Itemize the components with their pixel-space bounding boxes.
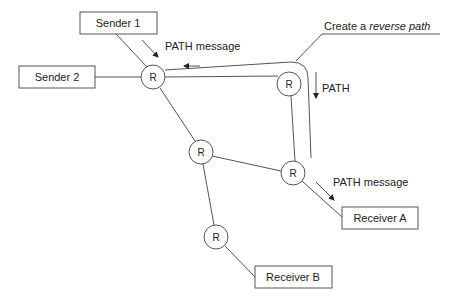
rsvp-diagram: Sender 1 Sender 2 Receiver A Receiver B … — [0, 0, 455, 301]
path-arrow-top — [142, 40, 158, 57]
path-arrow-bottom — [316, 182, 334, 200]
router-2-label: R — [285, 79, 292, 90]
router-5: R — [204, 225, 228, 249]
router-1-label: R — [149, 72, 156, 83]
path-message-bottom-label: PATH message — [333, 176, 408, 188]
receiver-b-label: Receiver B — [266, 271, 320, 283]
path-label: PATH — [322, 82, 350, 94]
path-message-top-label: PATH message — [165, 40, 240, 52]
reverse-path-callout — [296, 34, 322, 61]
router-4: R — [281, 161, 305, 185]
reverse-path-label: Create a reverse path — [324, 20, 430, 32]
router-3: R — [189, 140, 213, 164]
receiver-a-box: Receiver A — [342, 207, 418, 229]
sender-2-label: Sender 2 — [35, 71, 80, 83]
link-r1-r2 — [165, 76, 278, 77]
link-r1-r3 — [160, 88, 195, 141]
router-4-label: R — [289, 168, 296, 179]
link-r5-receiverB — [225, 246, 255, 277]
receiver-b-box: Receiver B — [255, 266, 332, 288]
reverse-path-prefix: Create a — [324, 20, 369, 32]
sender-1-label: Sender 1 — [96, 17, 141, 29]
router-3-label: R — [197, 147, 204, 158]
router-2: R — [277, 72, 301, 96]
receiver-a-label: Receiver A — [353, 212, 407, 224]
sender-2-box: Sender 2 — [19, 66, 95, 88]
sender-1-box: Sender 1 — [80, 12, 157, 34]
link-r3-r4 — [212, 156, 281, 171]
link-r2-r4 — [291, 96, 295, 161]
link-r3-r5 — [203, 164, 214, 225]
router-5-label: R — [212, 232, 219, 243]
link-sender1-r1 — [116, 34, 147, 67]
router-1: R — [141, 65, 165, 89]
reverse-path-italic: reverse path — [369, 20, 430, 32]
